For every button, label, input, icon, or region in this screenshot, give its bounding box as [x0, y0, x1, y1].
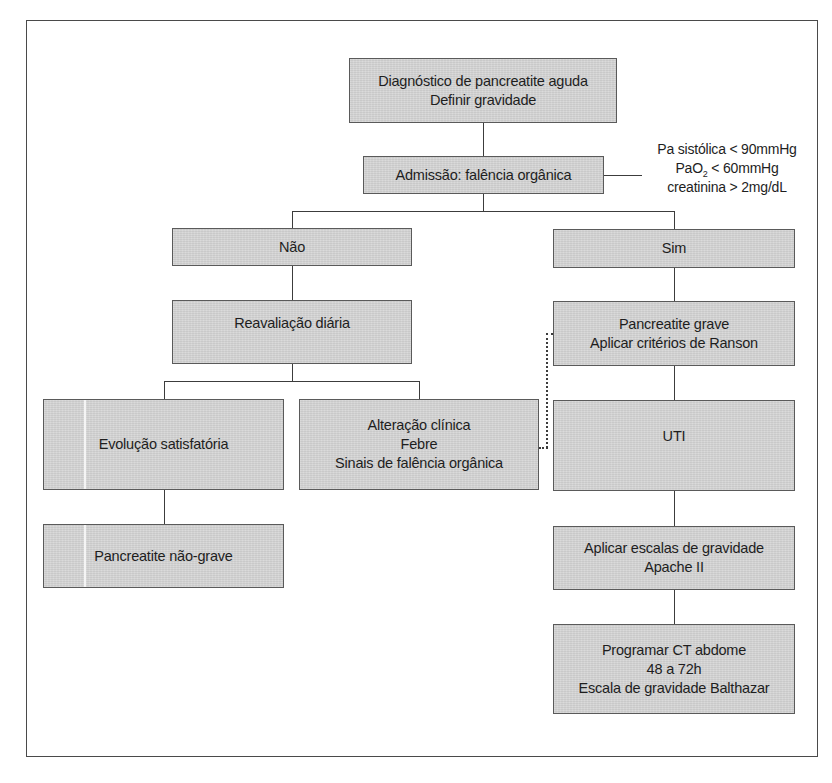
connector-branch-yes-no: [292, 211, 675, 212]
node-icu: UTI: [553, 400, 795, 491]
node-daily-reassessment-line-1: Reavaliação diária: [234, 314, 350, 333]
criteria-creatinine: creatinina > 2mg/dL: [642, 178, 812, 197]
connector-no-reassessment: [292, 266, 293, 300]
node-ct-schedule-line-3: Escala de gravidade Balthazar: [579, 679, 770, 698]
node-clinical-change-line-2: Febre: [401, 435, 438, 454]
node-severe-line-2: Aplicar critérios de Ranson: [590, 334, 758, 353]
connector-branch-clinical-change: [419, 381, 420, 399]
dotted-connector-vertical: [546, 333, 548, 448]
node-no-line-1: Não: [279, 238, 305, 257]
node-non-severe: Pancreatite não-grave: [43, 524, 284, 588]
node-severe: Pancreatite grave Aplicar critérios de R…: [553, 301, 795, 366]
node-yes: Sim: [553, 229, 795, 268]
node-satisfactory-line-1: Evolução satisfatória: [99, 435, 229, 454]
connector-severe-icu: [674, 366, 675, 400]
scan-artifact-streak: [84, 525, 86, 587]
node-clinical-change-line-1: Alteração clínica: [368, 416, 471, 435]
node-non-severe-line-1: Pancreatite não-grave: [94, 547, 232, 566]
node-yes-line-1: Sim: [662, 239, 686, 258]
node-ct-schedule-line-1: Programar CT abdome: [602, 641, 746, 660]
connector-branch-satisfactory: [164, 381, 165, 399]
dotted-connector-bottom: [539, 447, 548, 449]
node-admission: Admissão: falência orgânica: [363, 156, 604, 194]
connector-admission-criteria: [604, 175, 642, 176]
node-severity-scales: Aplicar escalas de gravidade Apache II: [553, 526, 795, 590]
node-diagnosis: Diagnóstico de pancreatite aguda Definir…: [349, 58, 617, 123]
connector-branch-outcomes: [164, 381, 420, 382]
node-clinical-change-line-3: Sinais de falência orgânica: [335, 454, 503, 473]
node-clinical-change: Alteração clínica Febre Sinais de falênc…: [299, 399, 539, 490]
connector-diagnosis-admission: [483, 123, 484, 156]
scan-artifact-streak: [84, 400, 86, 489]
node-daily-reassessment: Reavaliação diária: [172, 300, 412, 364]
node-admission-line-1: Admissão: falência orgânica: [396, 166, 572, 185]
connector-icu-scales: [674, 491, 675, 526]
node-diagnosis-line-2: Definir gravidade: [430, 91, 536, 110]
criteria-systolic: Pa sistólica < 90mmHg: [642, 140, 812, 159]
connector-yes-severe: [674, 268, 675, 301]
connector-admission-branch: [483, 194, 484, 211]
organ-failure-criteria: Pa sistólica < 90mmHg PaO2 < 60mmHg crea…: [642, 140, 812, 197]
connector-branch-yes: [674, 211, 675, 229]
node-ct-schedule-line-2: 48 a 72h: [647, 660, 702, 679]
criteria-pao2: PaO2 < 60mmHg: [642, 159, 812, 178]
connector-branch-no: [292, 211, 293, 228]
node-satisfactory: Evolução satisfatória: [43, 399, 284, 490]
node-icu-line-1: UTI: [663, 427, 686, 446]
node-severity-scales-line-2: Apache II: [644, 558, 703, 577]
node-severity-scales-line-1: Aplicar escalas de gravidade: [584, 539, 764, 558]
connector-scales-ct: [674, 590, 675, 624]
node-diagnosis-line-1: Diagnóstico de pancreatite aguda: [378, 72, 588, 91]
node-severe-line-1: Pancreatite grave: [619, 315, 729, 334]
criteria-pao2-suffix: < 60mmHg: [708, 160, 779, 176]
connector-satisfactory-nonsevere: [164, 490, 165, 524]
node-no: Não: [172, 228, 412, 266]
connector-reassessment-branch: [292, 364, 293, 381]
node-ct-schedule: Programar CT abdome 48 a 72h Escala de g…: [553, 624, 795, 714]
criteria-pao2-prefix: PaO: [675, 160, 702, 176]
